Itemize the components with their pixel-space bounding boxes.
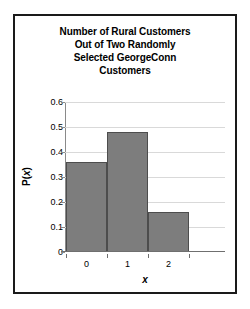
y-axis-tickmark — [61, 252, 65, 253]
bar — [148, 212, 189, 252]
chart-frame: Number of Rural Customers Out of Two Ran… — [13, 14, 237, 294]
y-axis-title: P(x) — [21, 157, 32, 197]
bar-series — [66, 102, 225, 252]
x-axis-line — [61, 251, 225, 252]
x-axis-tickmark — [107, 254, 108, 258]
x-axis-tickmark — [148, 254, 149, 258]
x-axis-title: x — [65, 274, 225, 285]
plot-area — [65, 102, 225, 252]
x-axis-tick-label: 2 — [166, 259, 171, 269]
bar — [107, 132, 148, 252]
x-axis-tick-label: 1 — [125, 259, 130, 269]
y-axis-tickmark — [61, 102, 65, 103]
y-axis-tick-labels: 00.10.20.30.40.50.6 — [37, 102, 63, 252]
y-axis-tickmark — [61, 127, 65, 128]
x-axis-tick-label: 0 — [84, 259, 89, 269]
plot-wrapper: P(x) 00.10.20.30.40.50.6 012 x — [15, 16, 235, 292]
y-axis-tickmark — [61, 227, 65, 228]
y-axis-tickmark — [61, 152, 65, 153]
y-axis-tickmark — [61, 177, 65, 178]
x-axis-tick-labels: 012 — [65, 254, 225, 268]
y-axis-tickmark — [61, 202, 65, 203]
x-axis-tickmark — [66, 254, 67, 258]
x-axis-tickmark — [189, 254, 190, 258]
bar — [66, 162, 107, 252]
